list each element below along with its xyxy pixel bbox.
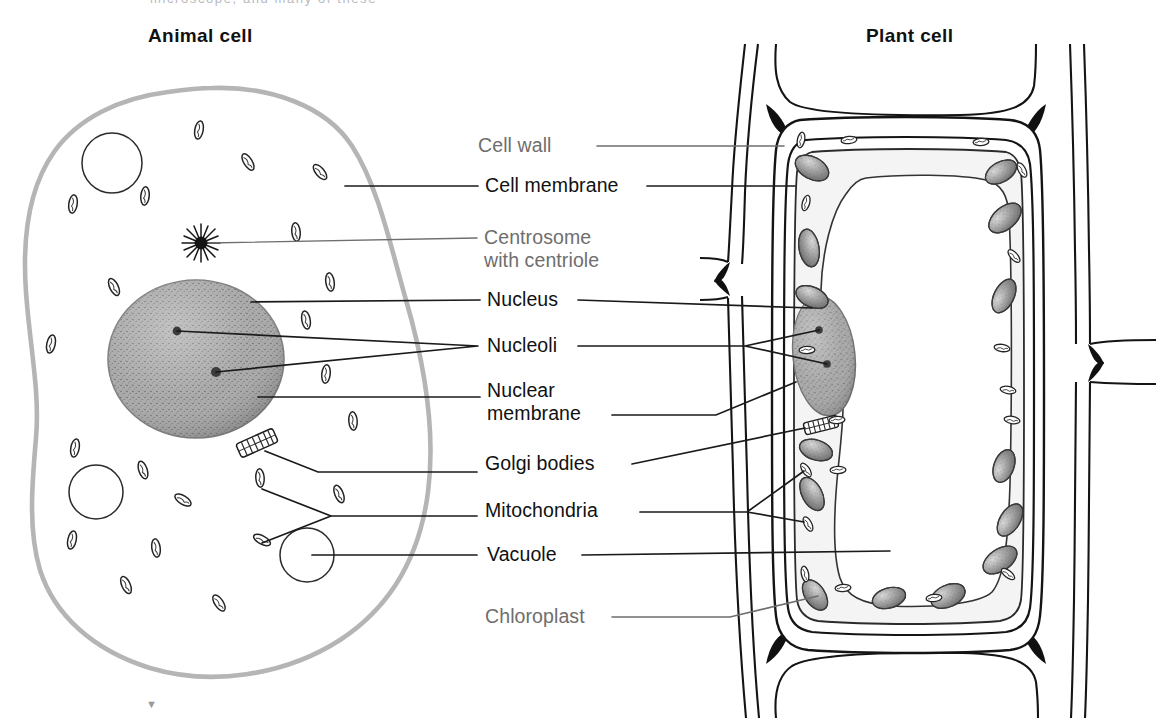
cell-diagram-page: microscope, and many of these: [0, 0, 1156, 726]
label-nuclear-membrane: Nuclear membrane: [487, 379, 581, 425]
animal-vacuole-1: [82, 133, 142, 193]
label-cell-wall: Cell wall: [478, 134, 552, 157]
plant-cell-group: [700, 44, 1156, 718]
label-nucleoli: Nucleoli: [487, 334, 557, 357]
leader-nuclear-membrane-plant: [612, 382, 796, 415]
stray-ink-mark: ▼: [146, 700, 151, 708]
label-vacuole: Vacuole: [487, 543, 557, 566]
animal-vacuole-2: [69, 465, 123, 519]
label-mitochondria: Mitochondria: [485, 499, 598, 522]
label-cell-membrane: Cell membrane: [485, 174, 619, 197]
animal-nucleus: [108, 280, 284, 438]
animal-cell-group: [25, 88, 431, 677]
plant-cell-title: Plant cell: [866, 25, 953, 47]
label-centrosome: Centrosome with centriole: [484, 226, 599, 272]
label-golgi-bodies: Golgi bodies: [485, 452, 595, 475]
label-chloroplast: Chloroplast: [485, 605, 585, 628]
animal-cell-title: Animal cell: [148, 25, 253, 47]
label-nucleus: Nucleus: [487, 288, 558, 311]
